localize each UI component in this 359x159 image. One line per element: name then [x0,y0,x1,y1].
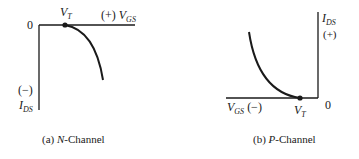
p-channel-caption: (b) P-Channel [253,133,316,145]
threshold-voltage-label: VT [294,104,306,118]
y-axis-label: IDS [322,12,336,26]
origin-label: 0 [325,99,331,111]
x-axis-label: (+) VGS [101,9,136,23]
origin-label: 0 [27,19,33,31]
x-axis-label: VGS (−) [227,101,262,115]
transfer-curve [249,32,300,98]
y-axis-label: IDS [19,99,33,113]
n-channel-caption: (a) N-Channel [42,133,105,145]
threshold-voltage-label: VT [60,6,72,20]
threshold-point [297,95,302,100]
threshold-point [62,22,67,27]
transfer-curve [65,25,103,80]
n-channel-panel: 0 VT (+) VGS (−) IDS (a) N-Channel [0,0,180,159]
y-axis-sign-label: (−) [18,84,33,96]
y-axis-sign-label: (+) [323,28,337,40]
p-channel-panel: IDS (+) VGS (−) VT 0 (b) P-Channel [180,0,359,159]
